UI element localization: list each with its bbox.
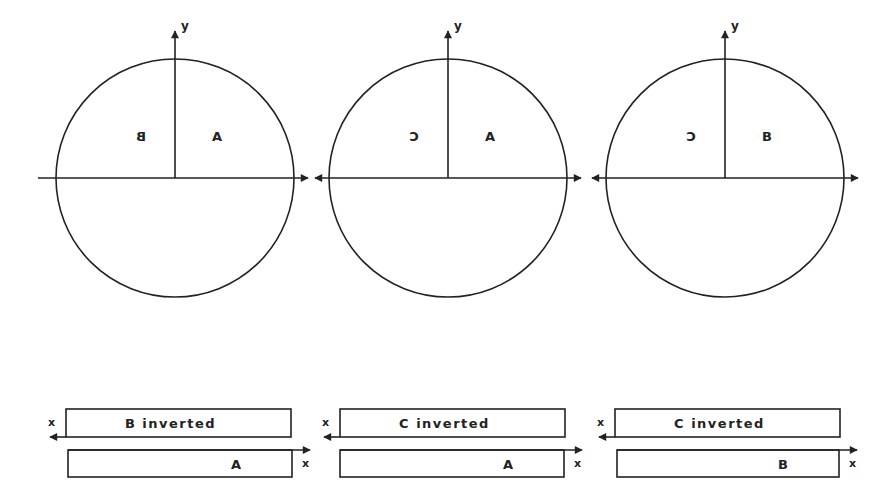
y-axis-label: y (731, 19, 739, 33)
quadrant-label-right: A (485, 129, 495, 144)
x-axis-label: x (322, 416, 329, 429)
x-axis-label: x (849, 457, 856, 470)
x-axis-label: x (597, 416, 604, 429)
strip-label: B (778, 457, 788, 472)
strip-pair-1: xB invertedxA (48, 409, 310, 477)
y-axis-label: y (454, 19, 462, 33)
strip-pair-2: xC invertedxA (322, 409, 582, 477)
circle-diagram-2: yCA (315, 19, 581, 297)
strip-label: A (503, 457, 513, 472)
strip (68, 450, 292, 477)
diagram-canvas: yBAyCAyCB xB invertedxAxC invertedxAxC i… (0, 0, 894, 492)
circle-diagram-3: yCB (592, 19, 858, 297)
x-axis-label: x (48, 416, 55, 429)
x-axis-label: x (302, 457, 309, 470)
quadrant-label-right: B (762, 129, 772, 144)
strip-pair-3: xC invertedxB (597, 409, 857, 477)
y-axis-label: y (181, 19, 189, 33)
inverted-strip-label: C inverted (674, 416, 765, 431)
circle-diagram-1: yBA (38, 19, 308, 297)
inverted-strip-label: C inverted (399, 416, 490, 431)
strip (617, 450, 839, 477)
x-axis-label: x (574, 457, 581, 470)
inverted-strip-label: B inverted (125, 416, 216, 431)
strip (340, 450, 564, 477)
quadrant-label-left: B (136, 129, 146, 144)
strip-label: A (231, 457, 241, 472)
quadrant-label-left: C (409, 129, 419, 144)
quadrant-label-left: C (686, 129, 696, 144)
quadrant-label-right: A (212, 129, 222, 144)
